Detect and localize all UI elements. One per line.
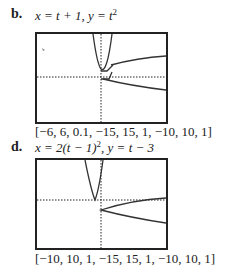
graph-screen-d xyxy=(35,158,168,250)
problem-b-equation: x = t + 1, y = t2 xyxy=(35,7,117,24)
problem-d-equation: x = 2(t − 1)2, y = t − 3 xyxy=(35,139,154,156)
exponent: 2 xyxy=(113,7,118,17)
graph-screen-b xyxy=(35,32,168,124)
problem-d-label: d. xyxy=(11,139,22,155)
equation-y: , y = t − 3 xyxy=(101,140,154,155)
window-settings-b: [−6, 6, 0.1, −15, 15, 1, −10, 10, 1] xyxy=(35,124,212,140)
graph-plot-d xyxy=(37,160,166,248)
graph-plot-b xyxy=(37,34,166,122)
equation-x: x = 2(t − 1) xyxy=(35,140,97,155)
equation-x: x = t + 1, xyxy=(35,8,85,23)
equation-y: y = t xyxy=(88,8,113,23)
window-settings-d: [−10, 10, 1, −15, 15, 1, −10, 10, 1] xyxy=(35,251,215,267)
problem-b-label: b. xyxy=(11,6,22,22)
